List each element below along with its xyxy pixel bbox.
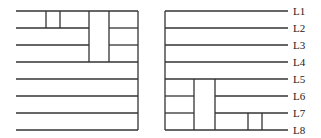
label-l4: L4 [293, 56, 306, 68]
label-l2: L2 [293, 22, 305, 34]
left-panel [16, 11, 138, 130]
label-l7: L7 [293, 107, 306, 119]
diagram-canvas: L1 L2 L3 L4 L5 L6 L7 L8 [0, 0, 321, 138]
label-l5: L5 [293, 73, 306, 85]
label-l3: L3 [293, 39, 306, 51]
right-panel: L1 L2 L3 L4 L5 L6 L7 L8 [165, 5, 306, 136]
label-l1: L1 [293, 5, 305, 17]
label-l8: L8 [293, 124, 306, 136]
label-l6: L6 [293, 90, 306, 102]
